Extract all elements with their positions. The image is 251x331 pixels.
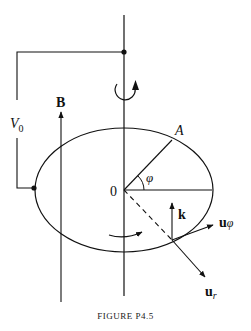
axis-rotation-arrowhead-icon xyxy=(132,80,139,90)
rim-contact-dot xyxy=(31,185,36,190)
b-field-label: B xyxy=(56,95,65,110)
dashed-radius xyxy=(124,190,171,239)
u-r-arrow xyxy=(172,240,205,277)
figure-diagram: V0 B A φ 0 k uφ ur FIGURE P4.5 xyxy=(0,0,251,331)
point-a-label: A xyxy=(174,123,184,138)
angle-arc xyxy=(138,176,144,190)
circuit-wire xyxy=(17,52,124,188)
top-contact-dot xyxy=(121,49,126,54)
k-vector-label: k xyxy=(178,207,186,222)
u-phi-label: uφ xyxy=(219,215,234,230)
voltage-label: V0 xyxy=(10,116,24,134)
u-phi-arrow xyxy=(172,225,213,240)
axis-rotation-arrow-icon xyxy=(115,84,135,100)
u-r-label: ur xyxy=(205,284,217,301)
angle-label: φ xyxy=(146,170,153,185)
disk-rotation-arrow xyxy=(109,232,142,237)
figure-caption: FIGURE P4.5 xyxy=(97,311,154,321)
origin-label: 0 xyxy=(110,184,117,199)
